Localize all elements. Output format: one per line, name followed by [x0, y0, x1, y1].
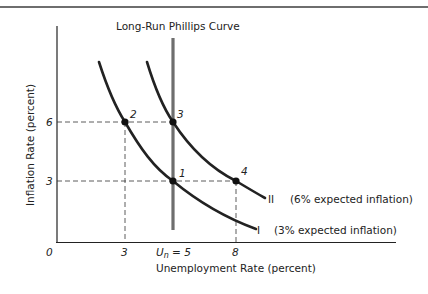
point-2	[121, 118, 128, 125]
y-tick-6: 6	[46, 116, 53, 128]
point-4	[232, 177, 239, 184]
y-axis-title: Inflation Rate (percent)	[24, 84, 36, 206]
point-3	[169, 118, 176, 125]
curve-i-desc: (3% expected inflation)	[274, 224, 397, 236]
curve-ii-name: II	[268, 193, 274, 205]
guide-lines	[57, 122, 236, 242]
x-tick-un: Un = 5	[156, 246, 191, 260]
point-3-label: 3	[177, 108, 184, 120]
curve-ii	[147, 62, 265, 198]
x-tick-origin: 0	[46, 246, 53, 258]
y-tick-3: 3	[46, 175, 53, 187]
phillips-curve-chart: 1 2 3 4 Long-Run Phillips Curve 6 3 0 3 …	[0, 0, 428, 294]
point-4-label: 4	[241, 165, 248, 177]
x-axis-title: Unemployment Rate (percent)	[156, 262, 316, 274]
x-tick-8: 8	[232, 246, 239, 258]
point-1-label: 1	[179, 167, 186, 179]
chart-title: Long-Run Phillips Curve	[116, 20, 240, 32]
curve-ii-desc: (6% expected inflation)	[290, 193, 413, 205]
x-tick-3: 3	[121, 246, 128, 258]
curve-i	[99, 62, 256, 229]
curve-i-name: I	[257, 224, 260, 236]
point-2-label: 2	[130, 108, 137, 120]
point-1	[169, 177, 176, 184]
